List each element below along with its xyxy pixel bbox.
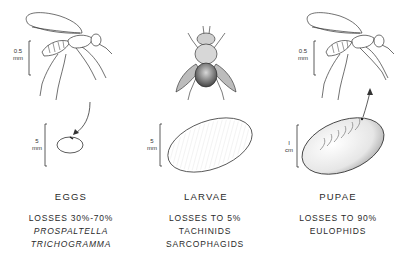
scale-label-adult-right: 0.5 mm	[295, 48, 311, 62]
pupa-icon	[294, 107, 392, 186]
scale-label-larva: 5 mm	[144, 138, 160, 152]
arrow-icon	[76, 102, 90, 133]
scale-label-adult-left: 0.5 mm	[10, 48, 26, 62]
scale-unit: mm	[298, 55, 308, 61]
parasitoid-larvae-1: TACHINIDS	[140, 226, 270, 236]
larva-icon	[160, 107, 259, 182]
stage-title-eggs: EGGS	[11, 191, 131, 202]
scale-value: 0.5	[299, 48, 307, 54]
scale-bar	[29, 41, 31, 75]
parasitoid-eggs-2: TRICHOGRAMMA	[6, 239, 136, 249]
parasitoid-pupae-1: EULOPHIDS	[273, 226, 402, 236]
losses-pupae: LOSSES TO 90%	[273, 213, 402, 223]
arrowhead-icon	[367, 88, 373, 95]
stage-title-pupae: PUPAE	[278, 191, 398, 202]
fly-icon	[176, 26, 236, 100]
parasitoid-eggs-1: PROSPALTELLA	[6, 226, 136, 236]
parasitoid-larvae-2: SARCOPHAGIDS	[140, 239, 270, 249]
wasp-icon	[307, 13, 394, 100]
scale-label-egg: 5 mm	[29, 138, 45, 152]
scale-value: 5	[150, 138, 153, 144]
scale-unit: cm	[285, 147, 293, 153]
egg-icon	[57, 137, 83, 153]
scale-unit: mm	[13, 55, 23, 61]
arrowhead-icon	[73, 129, 79, 135]
scale-label-pupa: I cm	[281, 140, 297, 154]
scale-value: 0.5	[14, 48, 22, 54]
scale-unit: mm	[147, 145, 157, 151]
losses-larvae: LOSSES TO 5%	[140, 213, 270, 223]
scale-unit: mm	[32, 145, 42, 151]
stage-title-larvae: LARVAE	[146, 191, 266, 202]
scale-value: 5	[35, 138, 38, 144]
losses-eggs: LOSSES 30%-70%	[6, 213, 136, 223]
wasp-icon	[26, 13, 112, 100]
scale-value: I	[288, 140, 290, 146]
